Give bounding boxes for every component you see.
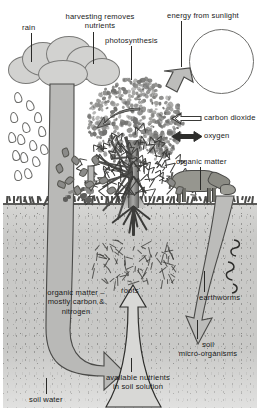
label-carbon-dioxide: carbon dioxide (204, 113, 256, 122)
tree-leaf (162, 123, 166, 128)
manure-clump (63, 198, 68, 202)
leader-organic-matter-surface (200, 167, 201, 190)
tree-leaf (114, 159, 117, 162)
root-branch (93, 145, 94, 152)
tree-leaf (147, 78, 153, 83)
manure-clump (85, 197, 92, 203)
grass-blade (145, 196, 148, 202)
tree-leaf (155, 108, 158, 110)
tree-leaf (168, 95, 172, 99)
tree-leaf (152, 125, 155, 128)
label-earthworms: earthworms (199, 293, 240, 302)
root-hair (166, 254, 167, 259)
manure-clump (68, 191, 72, 194)
leader-harvesting (93, 32, 94, 64)
carbon-dioxide-arrow (172, 112, 202, 125)
label-organic-matter-soil: organic matter – mostly carbon & nitroge… (38, 288, 114, 316)
leader-photosynthesis (131, 46, 132, 80)
root-hair (134, 266, 135, 272)
grass-blade (13, 196, 15, 203)
raindrop (9, 111, 19, 123)
label-rain: rain (22, 23, 35, 32)
label-soil-water: soil water (29, 395, 63, 404)
grass-blade (159, 196, 161, 200)
label-sunlight: energy from sunlight (167, 11, 239, 20)
root-branch (169, 153, 170, 159)
leader-rain (31, 33, 32, 62)
label-soil-micro-organisms: soil micro-organisms (168, 340, 248, 359)
leader-soil-water (46, 378, 47, 394)
leader-sunlight (181, 21, 182, 67)
root-branch (103, 143, 104, 150)
root-branch (108, 164, 109, 169)
tree-leaf (128, 80, 133, 85)
label-oxygen: oxygen (204, 131, 229, 140)
root-hair (167, 256, 168, 263)
grass-blade (241, 196, 244, 200)
label-harvesting: harvesting removes nutrients (52, 12, 148, 31)
leader-earthworms (204, 271, 205, 292)
label-roots: roots (121, 286, 139, 295)
grass-blade (8, 196, 11, 201)
oxygen-arrow (172, 130, 202, 143)
sun-icon (189, 29, 254, 94)
tree-leaf (102, 129, 108, 135)
harvest-removal-arrow (96, 108, 142, 130)
tree-leaf (131, 94, 135, 97)
root-branch (139, 174, 147, 182)
grass-blade (237, 196, 240, 203)
label-organic-matter-surface: organic matter (176, 157, 227, 166)
label-photosynthesis: photosynthesis (105, 36, 158, 45)
leader-soil-micro-organisms (197, 320, 198, 339)
tree-leaf (89, 101, 92, 104)
tree-leaf (159, 96, 165, 101)
manure-clump (80, 194, 86, 199)
cow-head (220, 184, 236, 195)
raindrop (7, 131, 17, 143)
tree-leaf (138, 88, 142, 92)
leader-available-nutrients (131, 358, 132, 372)
label-available-nutrients: available nutrients in soil solution (92, 373, 184, 392)
tree-leaf (150, 93, 152, 96)
tree-leaf (142, 116, 146, 121)
root-hair (167, 279, 168, 284)
root-branch (132, 206, 135, 236)
nutrient-cycle-diagram: harvesting removes nutrients rain photos… (0, 0, 260, 419)
